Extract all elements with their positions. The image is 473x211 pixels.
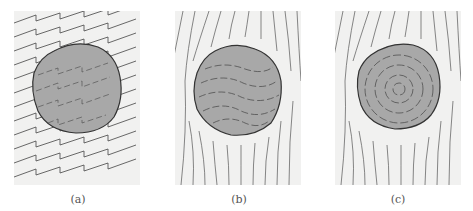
panel-c (335, 11, 461, 185)
panel-b-drawing (175, 11, 301, 185)
panel-b (175, 11, 301, 185)
panel-c-drawing (335, 11, 461, 185)
panel-a-label: (a) (58, 193, 98, 206)
panel-c-label: (c) (378, 193, 418, 206)
panel-a-drawing (14, 11, 140, 185)
panel-b-label: (b) (219, 193, 259, 206)
panel-a (14, 11, 140, 185)
